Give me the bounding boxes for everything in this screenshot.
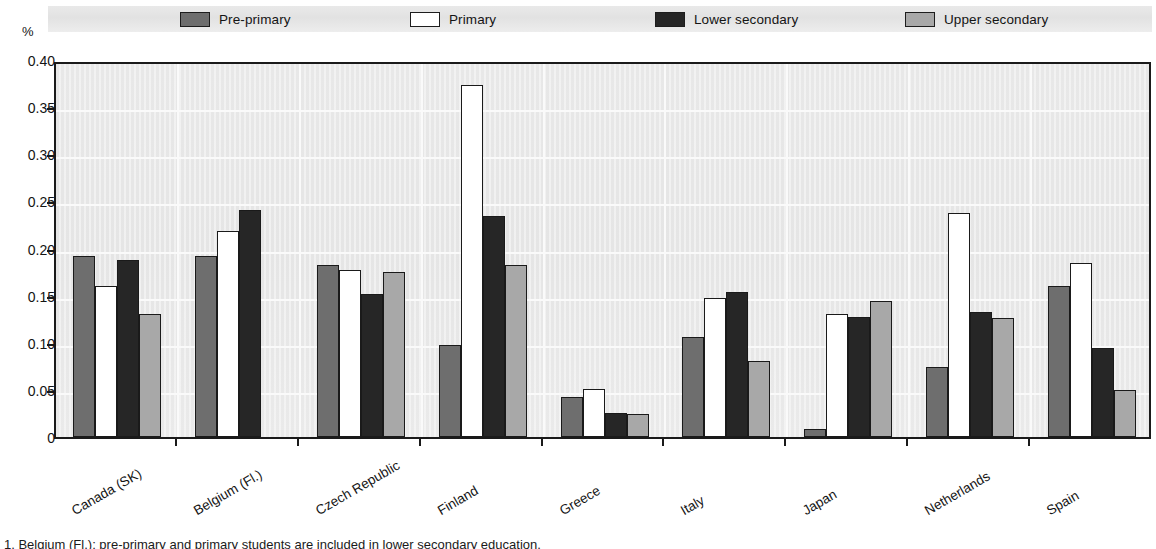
legend-swatch-icon (905, 12, 935, 27)
legend-item-pre-primary: Pre-primary (180, 10, 291, 28)
y-axis-unit-label: % (22, 24, 34, 39)
chart-footnote: 1. Belgium (Fl.): pre-primary and primar… (4, 537, 1144, 549)
y-axis-tick-label: 0.40 (9, 53, 55, 69)
legend-label: Lower secondary (694, 12, 798, 27)
legend-item-upper-secondary: Upper secondary (905, 10, 1048, 28)
legend-label: Upper secondary (944, 12, 1048, 27)
x-axis-tick-mark (541, 439, 543, 446)
x-axis-category-label: Italy (678, 493, 707, 518)
x-axis-tick-mark (906, 439, 908, 446)
x-axis-tick-mark (297, 439, 299, 446)
legend-item-lower-secondary: Lower secondary (655, 10, 798, 28)
y-axis-tick-mark (47, 155, 54, 157)
x-axis-category-label: Netherlands (922, 469, 993, 518)
x-axis-category-label: Finland (435, 483, 481, 518)
y-axis-tick-label: 0 (9, 430, 55, 446)
x-axis-category-label: Canada (SK) (69, 466, 144, 518)
y-axis-tick-mark (47, 250, 54, 252)
x-axis-category-label: Belgium (Fl.) (191, 467, 265, 518)
y-axis-tick-mark (47, 297, 54, 299)
legend-swatch-icon (180, 12, 210, 27)
x-axis-tick-mark (662, 439, 664, 446)
x-axis-category-label: Japan (800, 487, 839, 518)
legend-label: Pre-primary (219, 12, 291, 27)
legend-item-primary: Primary (410, 10, 496, 28)
x-axis-category-label: Spain (1044, 488, 1081, 518)
legend-label: Primary (449, 12, 496, 27)
legend-swatch-icon (410, 12, 440, 27)
y-axis-tick-mark (47, 108, 54, 110)
y-axis-tick-mark (47, 391, 54, 393)
x-axis-tick-mark (784, 439, 786, 446)
y-axis: 00.050.100.150.200.250.300.350.40 (54, 62, 1151, 439)
y-axis-tick-mark (47, 202, 54, 204)
x-axis-tick-mark (1028, 439, 1030, 446)
x-axis-category-label: Greece (557, 483, 603, 518)
chart-legend: Pre-primaryPrimaryLower secondaryUpper s… (48, 6, 1152, 32)
y-axis-tick-mark (47, 344, 54, 346)
x-axis-tick-mark (175, 439, 177, 446)
legend-swatch-icon (655, 12, 685, 27)
x-axis-category-label: Czech Republic (313, 458, 402, 518)
x-axis-tick-mark (419, 439, 421, 446)
